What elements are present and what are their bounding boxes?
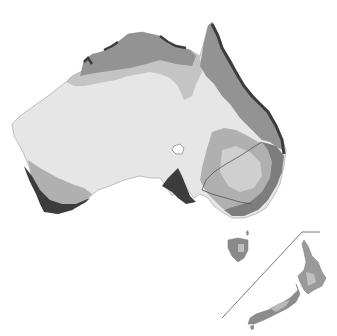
nz-north-island (298, 240, 326, 294)
tasmania-islet (246, 230, 249, 236)
australia-nz-climate-map (0, 0, 337, 336)
tasmania-light-zone (238, 244, 244, 252)
map-container (0, 0, 337, 336)
nz-stewart-island (250, 325, 254, 330)
nz-south-island (248, 284, 300, 324)
